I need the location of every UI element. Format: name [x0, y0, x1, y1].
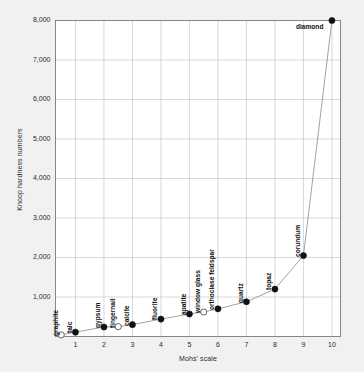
- data-point-label: diamond: [296, 23, 323, 30]
- data-point-marker: [101, 324, 107, 330]
- data-point-marker: [158, 316, 164, 322]
- data-point-label: orthoclase feldspar: [208, 249, 215, 310]
- data-point-label: corundum: [294, 224, 301, 256]
- data-point-marker: [272, 286, 278, 292]
- data-point-marker: [243, 299, 249, 305]
- data-point-marker: [201, 309, 207, 315]
- data-point-label: gypsum: [94, 303, 101, 328]
- data-point-label: graphite: [52, 310, 59, 336]
- data-point-label: fingernail: [109, 298, 116, 328]
- y-axis-tick-label: 1,000: [17, 293, 51, 300]
- data-point-label: apatite: [180, 294, 187, 315]
- y-axis-tick-label: 7,000: [17, 56, 51, 63]
- y-axis-tick-label: 5,000: [17, 135, 51, 142]
- y-axis-tick-label: 3,000: [17, 214, 51, 221]
- data-point-label: talc: [66, 322, 73, 333]
- y-axis-tick-label: 4,000: [17, 174, 51, 181]
- chart-figure: Knoop hardness numbers Mohs' scale 12345…: [0, 0, 364, 372]
- data-point-marker: [115, 324, 121, 330]
- y-axis-tick-label: 6,000: [17, 95, 51, 102]
- y-axis-tick-label: 2,000: [17, 253, 51, 260]
- x-axis-tick-label: 3: [125, 341, 139, 348]
- data-point-marker: [58, 332, 64, 338]
- data-point-marker: [215, 306, 221, 312]
- x-axis-tick-label: 6: [211, 341, 225, 348]
- data-point-label: calcite: [123, 305, 130, 326]
- data-point-label: window glass: [194, 270, 201, 313]
- x-axis-tick-label: 7: [239, 341, 253, 348]
- x-axis-tick-label: 5: [182, 341, 196, 348]
- data-point-marker: [129, 322, 135, 328]
- y-axis-tick-label: 8,000: [17, 16, 51, 23]
- x-axis-tick-label: 9: [296, 341, 310, 348]
- data-point-marker: [186, 311, 192, 317]
- x-axis-title: Mohs' scale: [55, 355, 341, 362]
- x-axis-tick-label: 4: [154, 341, 168, 348]
- data-point-marker: [72, 329, 78, 335]
- data-point-marker: [300, 252, 306, 258]
- x-axis-tick-label: 1: [68, 341, 82, 348]
- x-axis-tick-label: 2: [97, 341, 111, 348]
- data-point-label: quartz: [237, 283, 244, 303]
- data-point-label: fluorite: [151, 298, 158, 320]
- x-axis-tick-label: 8: [268, 341, 282, 348]
- data-point-label: topaz: [265, 273, 272, 290]
- data-point-marker: [329, 17, 335, 23]
- x-axis-tick-label: 10: [325, 341, 339, 348]
